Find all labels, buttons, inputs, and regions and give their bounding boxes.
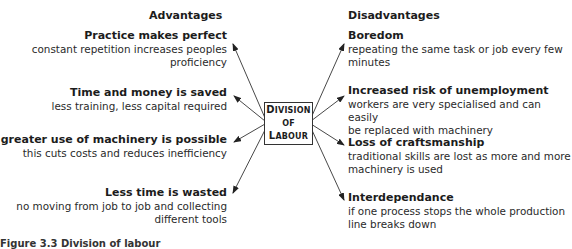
arrow-practice — [233, 44, 265, 118]
advantage-machinery: A greater use of machinery is possible t… — [0, 133, 227, 160]
center-line-2: OF — [265, 118, 312, 131]
advantage-time-money: Time and money is saved less training, l… — [0, 86, 227, 113]
center-line-3: LABOUR — [265, 130, 312, 144]
division-of-labour-box: DIVISION OF LABOUR — [264, 102, 313, 145]
arrow-time-money — [234, 96, 265, 121]
disadvantage-unemployment: Increased risk of unemployment workers a… — [348, 84, 572, 137]
arrow-craftsmanship — [311, 124, 344, 145]
advantage-practice: Practice makes perfect constant repetiti… — [0, 29, 227, 69]
advantage-less-time: Less time is wasted no moving from job t… — [0, 186, 227, 226]
disadvantage-interdependance: Interdependance if one process stops the… — [348, 191, 572, 231]
arrow-unemployment — [311, 96, 344, 121]
figure-caption: Figure 3.3 Division of labour — [0, 238, 160, 249]
center-line-1: DIVISION — [265, 104, 312, 118]
arrow-less-time — [233, 128, 266, 193]
arrow-interdependance — [311, 128, 344, 200]
disadvantage-craftsmanship: Loss of craftsmanship traditional skills… — [348, 136, 572, 176]
disadvantages-heading: Disadvantages — [348, 9, 440, 22]
advantages-heading: Advantages — [149, 9, 222, 22]
arrow-boredom — [311, 44, 344, 118]
disadvantage-boredom: Boredom repeating the same task or job e… — [348, 29, 572, 69]
